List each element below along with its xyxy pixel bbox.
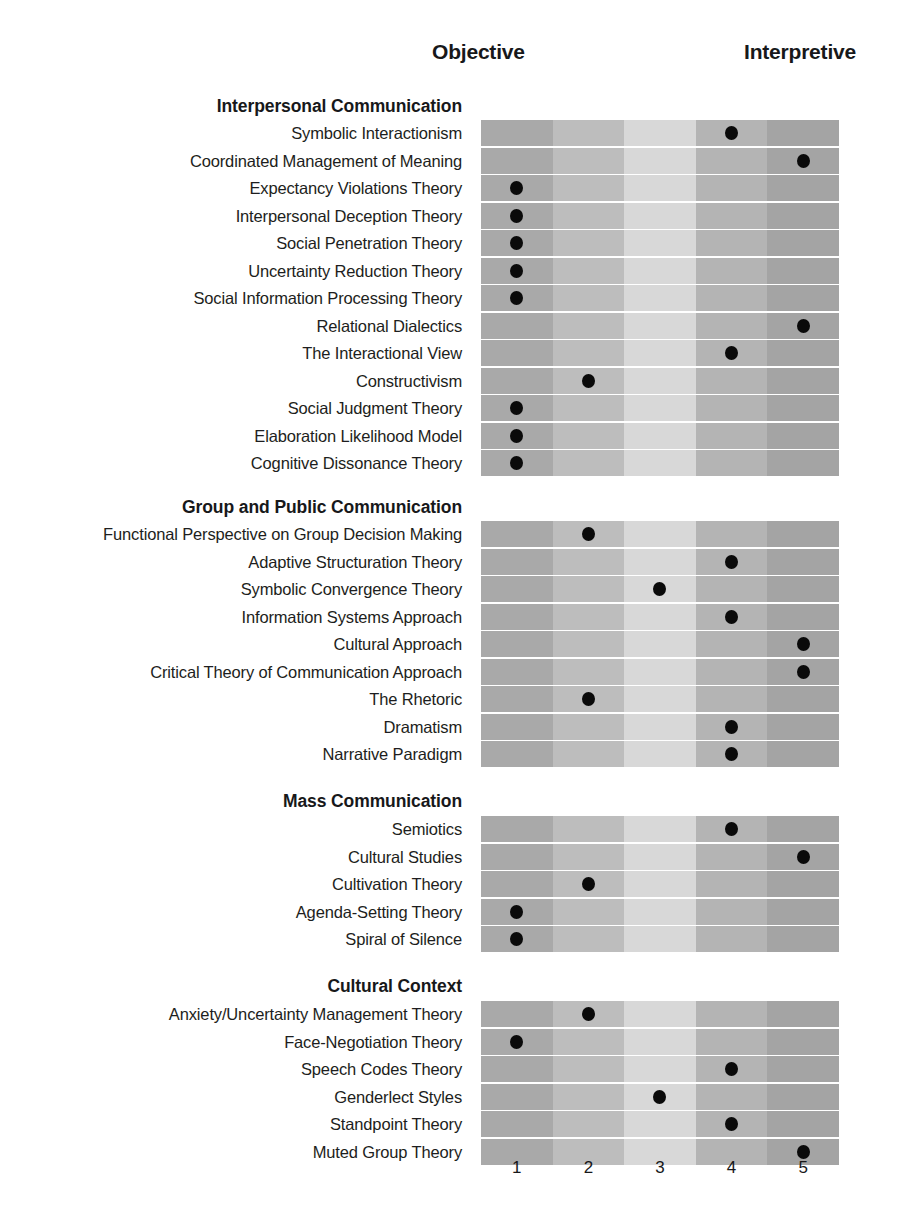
scale-cell-4[interactable] xyxy=(696,1056,768,1082)
scale-cell-5[interactable] xyxy=(767,368,839,394)
scale-cell-4[interactable] xyxy=(696,423,768,449)
theory-row[interactable]: Relational Dialectics xyxy=(0,313,907,339)
scale-cell-4[interactable] xyxy=(696,368,768,394)
scale-cell-1[interactable] xyxy=(481,1084,553,1110)
scale-cell-2[interactable] xyxy=(553,313,625,339)
theory-row[interactable]: Semiotics xyxy=(0,816,907,842)
scale-cell-3[interactable] xyxy=(624,899,696,925)
scale-cell-1[interactable] xyxy=(481,604,553,630)
theory-row[interactable]: Narrative Paradigm xyxy=(0,741,907,767)
scale-cell-2[interactable] xyxy=(553,816,625,842)
theory-row[interactable]: The Interactional View xyxy=(0,340,907,366)
scale-cell-4[interactable] xyxy=(696,1111,768,1137)
theory-row[interactable]: Social Judgment Theory xyxy=(0,395,907,421)
scale-cell-5[interactable] xyxy=(767,844,839,870)
scale-cell-2[interactable] xyxy=(553,258,625,284)
scale-cell-3[interactable] xyxy=(624,816,696,842)
scale-cell-2[interactable] xyxy=(553,1084,625,1110)
theory-row[interactable]: Adaptive Structuration Theory xyxy=(0,549,907,575)
scale-cell-1[interactable] xyxy=(481,368,553,394)
scale-cell-2[interactable] xyxy=(553,285,625,311)
scale-cell-2[interactable] xyxy=(553,659,625,685)
scale-cell-4[interactable] xyxy=(696,395,768,421)
theory-row[interactable]: Uncertainty Reduction Theory xyxy=(0,258,907,284)
scale-cell-3[interactable] xyxy=(624,395,696,421)
scale-cell-5[interactable] xyxy=(767,203,839,229)
theory-row[interactable]: Spiral of Silence xyxy=(0,926,907,952)
theory-row[interactable]: Information Systems Approach xyxy=(0,604,907,630)
scale-cell-4[interactable] xyxy=(696,450,768,476)
scale-cell-3[interactable] xyxy=(624,120,696,146)
scale-cell-2[interactable] xyxy=(553,899,625,925)
scale-cell-1[interactable] xyxy=(481,1001,553,1027)
scale-cell-2[interactable] xyxy=(553,1111,625,1137)
scale-cell-5[interactable] xyxy=(767,450,839,476)
theory-row[interactable]: Elaboration Likelihood Model xyxy=(0,423,907,449)
scale-cell-5[interactable] xyxy=(767,395,839,421)
scale-cell-1[interactable] xyxy=(481,741,553,767)
scale-cell-1[interactable] xyxy=(481,120,553,146)
scale-cell-5[interactable] xyxy=(767,741,839,767)
scale-cell-2[interactable] xyxy=(553,423,625,449)
scale-cell-1[interactable] xyxy=(481,631,553,657)
scale-cell-4[interactable] xyxy=(696,604,768,630)
theory-row[interactable]: Symbolic Convergence Theory xyxy=(0,576,907,602)
scale-cell-1[interactable] xyxy=(481,521,553,547)
scale-cell-5[interactable] xyxy=(767,604,839,630)
scale-cell-5[interactable] xyxy=(767,313,839,339)
scale-cell-4[interactable] xyxy=(696,1029,768,1055)
scale-cell-4[interactable] xyxy=(696,340,768,366)
scale-cell-3[interactable] xyxy=(624,1084,696,1110)
scale-cell-2[interactable] xyxy=(553,714,625,740)
scale-cell-3[interactable] xyxy=(624,313,696,339)
scale-cell-4[interactable] xyxy=(696,741,768,767)
theory-row[interactable]: Genderlect Styles xyxy=(0,1084,907,1110)
scale-cell-3[interactable] xyxy=(624,258,696,284)
theory-row[interactable]: Constructivism xyxy=(0,368,907,394)
scale-cell-3[interactable] xyxy=(624,631,696,657)
scale-cell-1[interactable] xyxy=(481,686,553,712)
scale-cell-2[interactable] xyxy=(553,521,625,547)
scale-cell-3[interactable] xyxy=(624,521,696,547)
scale-cell-2[interactable] xyxy=(553,340,625,366)
theory-row[interactable]: Functional Perspective on Group Decision… xyxy=(0,521,907,547)
scale-cell-5[interactable] xyxy=(767,576,839,602)
scale-cell-3[interactable] xyxy=(624,148,696,174)
theory-row[interactable]: Coordinated Management of Meaning xyxy=(0,148,907,174)
scale-cell-2[interactable] xyxy=(553,549,625,575)
scale-cell-2[interactable] xyxy=(553,368,625,394)
theory-row[interactable]: Cultural Approach xyxy=(0,631,907,657)
scale-cell-4[interactable] xyxy=(696,258,768,284)
scale-cell-5[interactable] xyxy=(767,899,839,925)
scale-cell-5[interactable] xyxy=(767,631,839,657)
scale-cell-2[interactable] xyxy=(553,741,625,767)
scale-cell-3[interactable] xyxy=(624,340,696,366)
scale-cell-1[interactable] xyxy=(481,175,553,201)
scale-cell-4[interactable] xyxy=(696,1084,768,1110)
scale-cell-5[interactable] xyxy=(767,1056,839,1082)
scale-cell-3[interactable] xyxy=(624,686,696,712)
scale-cell-4[interactable] xyxy=(696,230,768,256)
scale-cell-3[interactable] xyxy=(624,714,696,740)
scale-cell-4[interactable] xyxy=(696,816,768,842)
theory-row[interactable]: Cultural Studies xyxy=(0,844,907,870)
theory-row[interactable]: The Rhetoric xyxy=(0,686,907,712)
scale-cell-5[interactable] xyxy=(767,686,839,712)
scale-cell-4[interactable] xyxy=(696,926,768,952)
scale-cell-2[interactable] xyxy=(553,175,625,201)
scale-cell-5[interactable] xyxy=(767,549,839,575)
scale-cell-1[interactable] xyxy=(481,549,553,575)
scale-cell-1[interactable] xyxy=(481,423,553,449)
scale-cell-1[interactable] xyxy=(481,816,553,842)
scale-cell-2[interactable] xyxy=(553,450,625,476)
theory-row[interactable]: Standpoint Theory xyxy=(0,1111,907,1137)
scale-cell-2[interactable] xyxy=(553,148,625,174)
scale-cell-5[interactable] xyxy=(767,714,839,740)
scale-cell-3[interactable] xyxy=(624,230,696,256)
scale-cell-4[interactable] xyxy=(696,871,768,897)
scale-cell-3[interactable] xyxy=(624,1111,696,1137)
scale-cell-3[interactable] xyxy=(624,604,696,630)
scale-cell-4[interactable] xyxy=(696,1001,768,1027)
scale-cell-1[interactable] xyxy=(481,576,553,602)
scale-cell-1[interactable] xyxy=(481,450,553,476)
